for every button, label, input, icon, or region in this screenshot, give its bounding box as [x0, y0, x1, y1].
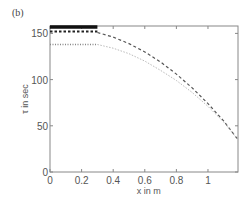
x-axis-label: x in m [137, 186, 161, 196]
y-tick-label: 50 [37, 121, 49, 132]
x-tick-label: 0.6 [138, 175, 152, 186]
plot-frame [50, 26, 238, 172]
x-tick-label: 0.2 [75, 175, 89, 186]
x-tick-label: 0.4 [106, 175, 120, 186]
x-tick-label: 0.8 [169, 175, 183, 186]
y-tick-label: 150 [31, 28, 48, 39]
line-chart: 00.20.40.60.81050100150x in mτ in sec [0, 0, 248, 204]
axis-labels: 00.20.40.60.81050100150x in mτ in sec [20, 28, 211, 196]
y-tick-label: 0 [42, 167, 48, 178]
series-line [97, 45, 238, 140]
series-line [97, 33, 238, 140]
x-tick-label: 0 [47, 175, 53, 186]
x-tick-label: 1 [205, 175, 211, 186]
y-tick-label: 100 [31, 75, 48, 86]
plot-axes [50, 26, 238, 172]
y-axis-label: τ in sec [20, 84, 30, 114]
plot-series [50, 27, 238, 140]
